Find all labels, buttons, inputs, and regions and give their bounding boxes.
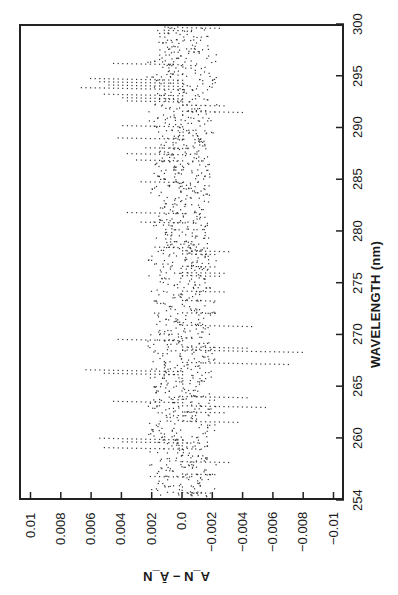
value-tick-label: −0.01 <box>326 512 341 545</box>
value-tick-label: −0.004 <box>235 512 250 552</box>
value-tick-label: 0.008 <box>53 512 68 545</box>
wavelength-tick-label: 275 <box>350 272 365 294</box>
value-tick-label: −0.008 <box>295 512 310 552</box>
value-tick-label: 0.01 <box>23 512 38 537</box>
value-tick-label: −0.002 <box>204 512 219 552</box>
data-points <box>81 26 303 497</box>
value-tick-label: −0.006 <box>265 512 280 552</box>
wavelength-tick-label: 280 <box>350 220 365 242</box>
wavelength-tick-label: 295 <box>350 65 365 87</box>
wavelength-tick-label: 265 <box>350 375 365 397</box>
x-axis-label: WAVELENGTH (nm) <box>368 241 383 368</box>
wavelength-tick-label: 285 <box>350 169 365 191</box>
wavelength-tick-label: 290 <box>350 117 365 139</box>
value-tick-label: 0.0 <box>174 512 189 530</box>
value-tick-label: 0.002 <box>144 512 159 545</box>
scatter-plot <box>0 0 398 595</box>
wavelength-tick-label: 300 <box>350 13 365 35</box>
wavelength-tick-label: 260 <box>350 427 365 449</box>
value-tick-label: 0.004 <box>113 512 128 545</box>
y-axis-label: A_N − Ā_N <box>143 569 210 584</box>
wavelength-tick-label: 270 <box>350 324 365 346</box>
wavelength-tick-label: 254 <box>350 489 365 511</box>
value-tick-label: 0.006 <box>83 512 98 545</box>
